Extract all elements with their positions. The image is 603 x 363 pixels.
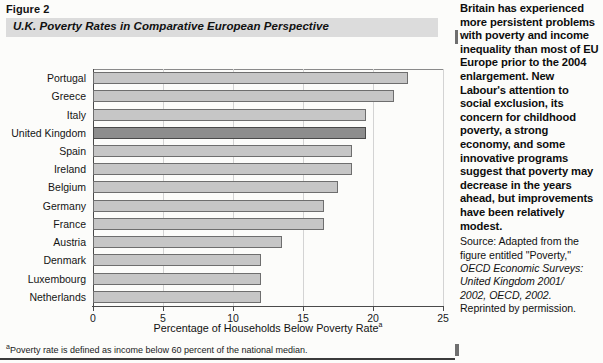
bar	[93, 181, 338, 193]
x-tick-25	[443, 307, 444, 311]
commentary-column: Britain has experienced more persistent …	[460, 0, 601, 363]
source-line: figure entitled "Poverty,"	[460, 249, 601, 262]
footnote-text: Poverty rate is defined as income below …	[10, 345, 308, 355]
bar	[93, 291, 261, 303]
bar-row: Spain	[93, 142, 443, 160]
x-tick-15	[303, 307, 304, 311]
figure-panel: Figure 2 U.K. Poverty Rates in Comparati…	[0, 0, 455, 363]
source-line: OECD Economic Surveys:	[460, 262, 601, 275]
category-label: Portugal	[47, 70, 86, 86]
category-label: France	[53, 216, 86, 232]
x-tick-5	[163, 307, 164, 311]
x-tick-10	[233, 307, 234, 311]
gridline-25	[443, 69, 444, 306]
bar-row: France	[93, 215, 443, 233]
bar	[93, 127, 366, 139]
category-label: United Kingdom	[11, 125, 86, 141]
source-line: Reprinted by permission.	[460, 302, 601, 315]
x-axis-title-superscript: a	[379, 321, 383, 328]
footnote: aPoverty rate is defined as income below…	[6, 343, 308, 355]
source-line: 2002, OECD, 2002.	[460, 289, 601, 302]
category-label: Netherlands	[29, 289, 86, 305]
x-tick-0	[93, 307, 94, 311]
bar-row: Portugal	[93, 69, 443, 87]
figure-page: Figure 2 U.K. Poverty Rates in Comparati…	[0, 0, 603, 363]
bar	[93, 254, 261, 266]
source-note: Source: Adapted from thefigure entitled …	[460, 235, 601, 315]
figure-title: U.K. Poverty Rates in Comparative Europe…	[13, 20, 329, 32]
bar-chart-plot-area: 0510152025 PortugalGreeceItalyUnited Kin…	[93, 69, 443, 306]
bar	[93, 273, 261, 285]
bar	[93, 90, 394, 102]
category-label: Luxembourg	[28, 271, 86, 287]
bar	[93, 109, 366, 121]
category-label: Germany	[43, 198, 86, 214]
category-label: Spain	[59, 143, 86, 159]
category-label: Austria	[53, 234, 86, 250]
bar-row: Ireland	[93, 160, 443, 178]
bar	[93, 163, 352, 175]
x-axis-line	[92, 306, 444, 307]
category-label: Greece	[52, 88, 86, 104]
category-label: Ireland	[54, 161, 86, 177]
source-line: United Kingdom 2001/	[460, 275, 601, 288]
bar-row: Italy	[93, 105, 443, 123]
x-axis-title: Percentage of Households Below Poverty R…	[93, 321, 443, 334]
x-axis-title-text: Percentage of Households Below Poverty R…	[154, 322, 379, 334]
bar	[93, 236, 282, 248]
bar	[93, 72, 408, 84]
bar	[93, 145, 352, 157]
commentary-paragraph: Britain has experienced more persistent …	[460, 2, 601, 233]
bar-row: Denmark	[93, 251, 443, 269]
bar	[93, 218, 324, 230]
category-label: Belgium	[48, 179, 86, 195]
bar-row: Greece	[93, 87, 443, 105]
bar-row: United Kingdom	[93, 124, 443, 142]
bar-row: Netherlands	[93, 288, 443, 306]
x-tick-20	[373, 307, 374, 311]
category-label: Denmark	[43, 252, 86, 268]
bar-row: Austria	[93, 233, 443, 251]
bar-row: Germany	[93, 197, 443, 215]
page-edge-mark-bottom	[455, 344, 459, 356]
source-line: Source: Adapted from the	[460, 235, 601, 248]
figure-number-label: Figure 2	[6, 3, 50, 15]
bar-row: Belgium	[93, 178, 443, 196]
bar-row: Luxembourg	[93, 270, 443, 288]
bottom-rule	[0, 358, 455, 360]
category-label: Italy	[67, 107, 86, 123]
bar	[93, 200, 324, 212]
page-edge-mark-top	[455, 30, 458, 44]
